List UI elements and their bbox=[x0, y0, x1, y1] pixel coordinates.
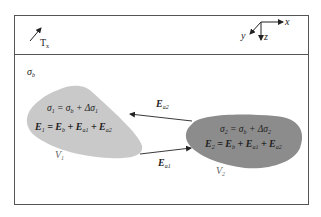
region-1-volume-label: V1 bbox=[55, 150, 64, 161]
diagram: Tx x y z σb σ1 = σb + Δσ1 E1 = Eb + Ea1 … bbox=[0, 0, 321, 217]
background-conductivity-label: σb bbox=[27, 67, 35, 78]
field-arrow-ea1 bbox=[140, 148, 191, 154]
region-2-volume-label: V2 bbox=[216, 166, 225, 177]
region-1-conductivity-equation: σ1 = σb + Δσ1 bbox=[47, 104, 98, 114]
axis-y-label: y bbox=[241, 31, 245, 41]
axis-x-label: x bbox=[285, 17, 289, 27]
field-arrow-ea2 bbox=[130, 114, 192, 121]
region-2-field-equation: E2 = Eb + Ea1 + Ea2 bbox=[205, 139, 282, 150]
region-2-conductivity-equation: σ2 = σb + Δσ2 bbox=[220, 125, 271, 135]
transmitter-label: Tx bbox=[40, 38, 49, 49]
axis-z-label: z bbox=[264, 32, 268, 42]
region-1-field-equation: E1 = Eb + Ea1 + Ea2 bbox=[35, 122, 112, 133]
field-label-ea2: Ea2 bbox=[156, 99, 169, 110]
field-label-ea1: Ea1 bbox=[158, 158, 171, 169]
